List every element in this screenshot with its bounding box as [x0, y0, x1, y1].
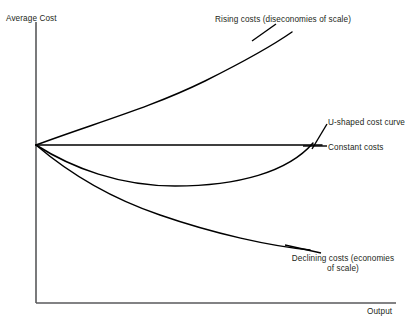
leader-line-declining: [285, 245, 321, 253]
annotation-declining-costs-line1: Declining costs (economies: [292, 254, 394, 263]
curve-u-shaped: [36, 143, 313, 186]
cost-curve-figure: Average Cost Output Rising costs (diseco…: [0, 0, 418, 325]
annotation-declining-costs: Declining costs (economiesof scale): [291, 254, 395, 274]
cost-curve-plot: [0, 0, 418, 325]
curve-declining-costs: [36, 145, 310, 250]
curve-rising-costs: [36, 32, 292, 145]
annotation-constant-costs: Constant costs: [328, 143, 384, 153]
leader-line-rising: [252, 24, 276, 41]
x-axis-label: Output: [367, 307, 392, 317]
y-axis-label: Average Cost: [6, 14, 57, 24]
annotation-declining-costs-line2: of scale): [291, 264, 395, 274]
annotation-u-shaped-cost-curve: U-shaped cost curve: [328, 118, 405, 128]
annotation-rising-costs: Rising costs (diseconomies of scale): [215, 15, 351, 25]
